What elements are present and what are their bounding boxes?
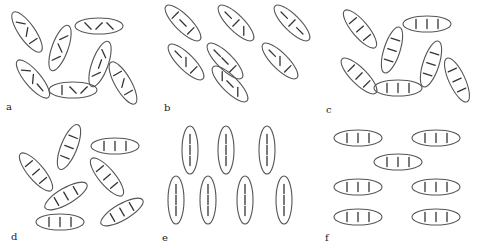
molecule-segment [69,135,77,138]
molecule-segment [92,70,100,78]
molecule-segment [285,66,291,72]
molecule-segment [388,49,397,52]
molecule [7,8,48,56]
molecule [213,0,258,45]
molecule-segment [107,23,113,29]
molecule [412,209,460,225]
panel-label-d: d [11,231,18,242]
molecule [163,39,208,84]
molecule [49,82,97,98]
molecule [182,126,198,174]
molecule [334,130,382,146]
molecule-segment [110,214,115,222]
molecule-segment [384,59,393,62]
molecule [91,138,139,154]
molecule-segment [56,44,64,52]
molecule-segment [391,38,400,41]
molecule [259,126,275,174]
molecule-segment [218,72,227,81]
molecule-segment [40,178,47,184]
molecule-segment [349,18,356,24]
molecule-segment [30,38,37,43]
molecule-segment [64,192,69,200]
molecule-segment [25,161,32,167]
molecule-segment [21,66,30,75]
molecule-segment [230,66,236,72]
molecule-segment [85,23,91,29]
molecule-segment [172,12,178,18]
molecule-segment [269,50,275,56]
panel-a [7,8,142,108]
molecule-segment [104,174,111,180]
molecule [85,153,128,200]
liquid-crystal-figure: a b c d e f [0,0,477,248]
molecule [412,130,460,146]
molecule-segment [81,87,87,93]
molecule-segment [364,81,370,87]
molecule-segment [98,60,101,68]
molecule [84,39,115,90]
molecule [200,176,216,224]
molecule-segment [427,63,436,66]
panel-label-c: c [326,104,332,115]
molecule [276,176,292,224]
molecule [403,16,451,32]
molecule [41,177,91,215]
molecule-segment [70,87,76,93]
molecule [44,23,75,74]
molecule [338,5,381,52]
molecule [36,214,84,230]
molecule [374,80,422,96]
molecule [202,38,247,83]
molecule [374,154,422,170]
panel-d [14,122,146,231]
molecule-segment [100,50,108,58]
molecule-segment [214,50,220,56]
molecule [269,0,314,45]
molecule-segment [188,28,194,34]
molecule-segment [182,58,191,67]
molecule [257,38,302,83]
molecule-segment [289,20,295,26]
molecule-segment [73,187,78,195]
molecule [14,148,57,195]
molecule-segment [114,71,122,76]
molecule [168,176,184,224]
molecule-segment [233,20,239,26]
molecule [334,179,382,195]
molecule [377,25,407,76]
molecule-segment [23,28,32,37]
molecule-segment [227,81,233,87]
molecule-segment [348,65,354,71]
molecule-segment [119,79,128,88]
panel-b [160,0,314,106]
molecule-segment [364,35,371,41]
molecule [416,39,446,90]
molecule-segment [29,75,38,84]
molecule [336,53,381,98]
molecule-segment [61,156,69,159]
molecule [334,209,382,225]
molecule-segment [175,51,181,57]
molecule-segment [125,90,133,95]
molecule [160,0,205,45]
panel-label-f: f [325,232,330,243]
molecule-segment [297,28,303,34]
panel-f [334,130,460,225]
molecule [440,55,475,105]
molecule [104,58,142,108]
molecule-segment [453,78,461,82]
molecule-segment [356,73,362,79]
molecule-segment [225,12,231,18]
molecule-segment [357,26,364,32]
molecule-segment [180,20,186,26]
molecule [53,122,86,172]
molecule-segment [191,67,197,73]
molecule-segment [111,183,118,189]
molecule-segment [37,84,43,91]
molecule-segment [16,19,25,28]
molecule-segment [96,23,102,29]
molecule-segment [448,68,456,72]
panel-e [168,126,292,224]
molecule-segment [65,145,73,148]
